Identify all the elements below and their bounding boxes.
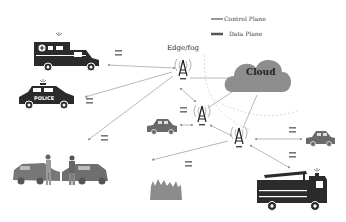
equals-marker <box>289 127 296 133</box>
equals-marker <box>289 152 296 158</box>
legend <box>211 19 223 34</box>
link-tower2-tower3 <box>210 125 232 136</box>
link-police-tower1 <box>85 72 172 97</box>
ambulance-icon <box>34 32 99 71</box>
cell-tower-icon <box>175 59 191 79</box>
car-crash-icon <box>13 155 108 186</box>
car-icon <box>147 119 177 135</box>
cloud-label: Cloud <box>246 67 275 77</box>
link-tower3-firetruck <box>250 145 290 168</box>
cell-tower-icon <box>194 105 210 125</box>
equals-marker <box>185 161 192 167</box>
link-tower2-cloud <box>208 92 232 108</box>
equals-marker <box>115 50 122 56</box>
link-ambulance-tower1 <box>108 65 175 68</box>
link-tower1-tower2 <box>180 88 196 102</box>
coverage-arc <box>215 100 300 116</box>
fire-truck-icon <box>257 168 327 211</box>
car-icon <box>306 131 335 147</box>
equals-marker <box>180 107 187 113</box>
cell-tower-icon <box>231 127 247 147</box>
legend-control-plane-label: Control Plane <box>224 15 266 22</box>
edge-fog-diagram: POLICE <box>0 0 346 222</box>
equals-marker <box>86 98 93 104</box>
link-tower3-cloud <box>243 95 257 128</box>
legend-data-plane-label: Data Plane <box>229 30 262 37</box>
police-car-icon: POLICE <box>19 79 74 109</box>
fire-icon <box>150 179 182 200</box>
link-fire-tower3 <box>152 141 228 160</box>
edge-fog-label: Edge/fog <box>167 44 199 52</box>
police-badge-text: POLICE <box>34 95 55 101</box>
equals-marker <box>101 135 108 141</box>
